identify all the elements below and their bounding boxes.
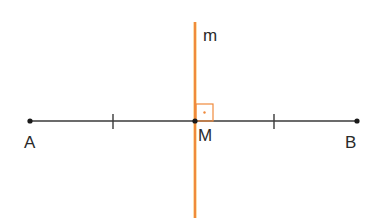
label-a: A bbox=[24, 134, 35, 151]
point-a bbox=[27, 118, 32, 123]
point-b bbox=[354, 118, 359, 123]
right-angle-dot bbox=[203, 111, 205, 113]
diagram-canvas bbox=[0, 0, 380, 218]
point-m bbox=[192, 118, 197, 123]
label-m: m bbox=[203, 27, 217, 44]
label-b: B bbox=[345, 134, 356, 151]
label-m-point: M bbox=[198, 127, 212, 144]
